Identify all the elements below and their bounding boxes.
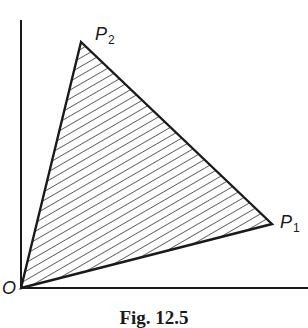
label-p2: P2 xyxy=(95,25,115,46)
diagram-figure: O P1 P2 Fig. 12.5 xyxy=(0,0,308,328)
triangle-diagram-svg xyxy=(0,0,308,328)
label-origin-text: O xyxy=(2,278,16,298)
label-p1-sub: 1 xyxy=(293,221,300,235)
label-p1-base: P xyxy=(280,212,292,232)
label-p2-base: P xyxy=(95,24,107,44)
label-p2-sub: 2 xyxy=(108,33,115,47)
figure-caption: Fig. 12.5 xyxy=(0,308,308,327)
triangle-hatch-fill xyxy=(0,0,308,328)
label-p1: P1 xyxy=(280,213,300,234)
label-origin: O xyxy=(2,279,16,297)
